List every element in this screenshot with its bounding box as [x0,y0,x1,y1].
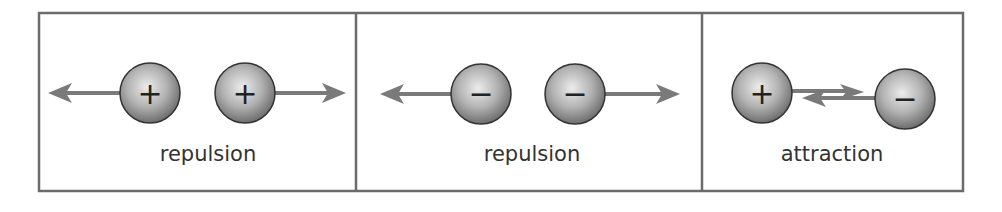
panel-attraction: + − attraction [732,63,935,166]
minus-symbol: − [562,76,587,111]
plus-symbol: + [137,76,162,111]
plus-symbol: + [232,76,257,111]
panel-label: repulsion [484,142,581,166]
panel-label: attraction [781,142,884,166]
panel-positive-repulsion: + + repulsion [48,63,346,166]
right-arrow-icon [272,83,346,103]
panel-label: repulsion [160,142,257,166]
panel-negative-repulsion: − − repulsion [380,64,680,166]
minus-symbol: − [892,81,917,116]
left-arrow-icon [380,84,455,104]
left-arrow-icon [48,83,120,103]
minus-symbol: − [468,76,493,111]
right-arrow-icon [604,84,680,104]
plus-symbol: + [749,76,774,111]
charge-diagram: + + repulsion − − repulsion + − [0,0,1002,212]
